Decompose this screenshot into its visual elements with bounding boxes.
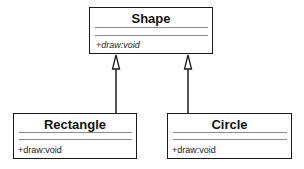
class-rectangle[interactable]: Rectangle +draw:void <box>13 113 137 159</box>
class-circle[interactable]: Circle +draw:void <box>167 113 292 159</box>
class-name: Shape <box>90 11 212 26</box>
attributes-separator <box>95 27 208 28</box>
class-name: Circle <box>168 117 291 132</box>
hollow-triangle-arrowhead-icon <box>113 55 120 69</box>
operations-separator <box>95 35 208 36</box>
operation: +draw:void <box>96 40 140 50</box>
operation: +draw:void <box>172 145 216 155</box>
operations-separator <box>173 139 287 140</box>
hollow-triangle-arrowhead-icon <box>185 55 192 69</box>
class-shape[interactable]: Shape +draw:void <box>89 7 213 54</box>
class-name: Rectangle <box>14 117 136 132</box>
attributes-separator <box>173 132 287 133</box>
circle-to-shape-generalization <box>185 55 192 113</box>
operation: +draw:void <box>18 145 62 155</box>
attributes-separator <box>19 132 132 133</box>
rectangle-to-shape-generalization <box>113 55 120 113</box>
operations-separator <box>19 139 132 140</box>
